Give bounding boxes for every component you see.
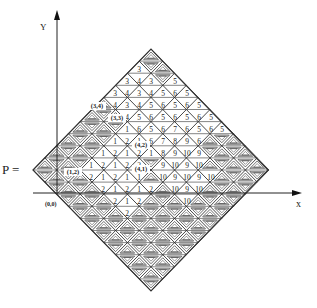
- cell-value: 9: [185, 161, 189, 170]
- cell-value: 4: [125, 89, 129, 98]
- cell-value: 1: [89, 161, 93, 170]
- cell-value: 1: [125, 125, 129, 134]
- cell-value: 2: [101, 185, 105, 194]
- cell-value: 5: [185, 113, 189, 122]
- cell-value: 1: [113, 137, 117, 146]
- cell-value: 1: [149, 149, 153, 158]
- cell-value: 2: [137, 149, 141, 158]
- cell-value: 10: [207, 173, 215, 182]
- cell-value: 10: [195, 161, 203, 170]
- cell-value: 4: [149, 89, 153, 98]
- cell-value: 1: [113, 161, 117, 170]
- cell-value: 6: [173, 113, 177, 122]
- cell-value: 9: [185, 185, 189, 194]
- cell-value: 6: [185, 101, 189, 110]
- cell-value: 1: [101, 149, 105, 158]
- y-axis-label: Y: [40, 22, 47, 32]
- cell-value: 5: [161, 89, 165, 98]
- cell-value: 6: [161, 101, 165, 110]
- cell-value: 5: [209, 113, 213, 122]
- point-label: (3,4): [91, 102, 103, 110]
- cell-value: 10: [171, 185, 179, 194]
- point-label: (1,2): [67, 168, 79, 176]
- cell-value: 3: [125, 101, 129, 110]
- cell-value: 2: [125, 137, 129, 146]
- x-axis-label: x: [296, 198, 301, 209]
- cell-value: 2: [89, 173, 93, 182]
- point-label: (3,3): [111, 114, 123, 122]
- cell-value: 2: [149, 185, 153, 194]
- cell-value: 9: [161, 161, 165, 170]
- cell-value: 9: [197, 149, 201, 158]
- cell-value: 8: [161, 149, 165, 158]
- cell-value: 6: [173, 89, 177, 98]
- cell-value: 5: [173, 101, 177, 110]
- cell-value: 7: [161, 137, 165, 146]
- cell-value: 2: [113, 197, 117, 206]
- cell-value: 9: [197, 173, 201, 182]
- cell-value: 1: [137, 185, 141, 194]
- cell-value: 5: [173, 77, 177, 86]
- cell-value: 3: [149, 77, 153, 86]
- cell-value: 1: [125, 173, 129, 182]
- cell-value: 5: [197, 125, 201, 134]
- point-label: (4,1): [135, 165, 147, 173]
- cell-value: 1: [125, 149, 129, 158]
- cell-value: 3: [137, 65, 141, 74]
- cell-value: 1: [125, 197, 129, 206]
- cell-value: 2: [113, 173, 117, 182]
- cell-value: 5: [185, 89, 189, 98]
- cell-value: 10: [159, 173, 167, 182]
- cell-value: 2: [125, 209, 129, 218]
- cell-value: 3: [137, 89, 141, 98]
- cell-value: 6: [185, 125, 189, 134]
- cell-value: 4: [137, 101, 141, 110]
- point-label: (4,2): [135, 141, 147, 149]
- cell-value: 10: [171, 161, 179, 170]
- cell-value: 4: [137, 77, 141, 86]
- cell-value: 1: [101, 173, 105, 182]
- cell-value: 6: [161, 125, 165, 134]
- cell-value: 5: [149, 125, 153, 134]
- cell-value: 9: [185, 137, 189, 146]
- cell-value: 1: [137, 173, 141, 182]
- cell-value: 2: [137, 197, 141, 206]
- x-axis-arrow-icon: [292, 190, 302, 196]
- cell-value: 6: [149, 113, 153, 122]
- cell-value: 6: [197, 113, 201, 122]
- cell-value: 3: [113, 89, 117, 98]
- lattice-diagram: 3343534345654345656545656565165676565121…: [0, 0, 317, 308]
- cell-values: 3343534345654345656545656565165676565121…: [89, 65, 224, 218]
- cell-value: 10: [183, 173, 191, 182]
- cell-value: 1: [113, 185, 117, 194]
- cell-value: 6: [209, 125, 213, 134]
- cell-value: 5: [137, 113, 141, 122]
- cell-value: 2: [125, 185, 129, 194]
- cell-value: 4: [113, 101, 117, 110]
- cell-value: 5: [161, 113, 165, 122]
- cell-value: 9: [173, 173, 177, 182]
- cell-value: 8: [173, 137, 177, 146]
- cell-value: 9: [173, 149, 177, 158]
- p-label: P =: [2, 162, 19, 177]
- cell-value: 6: [137, 125, 141, 134]
- cell-value: 7: [173, 125, 177, 134]
- cell-value: 5: [149, 101, 153, 110]
- cell-value: 2: [125, 161, 129, 170]
- cell-value: 10: [183, 197, 191, 206]
- cell-value: 2: [113, 149, 117, 158]
- cell-value: 2: [101, 161, 105, 170]
- cell-value: 10: [195, 185, 203, 194]
- origin-label: (0,0): [45, 201, 57, 208]
- cell-value: 10: [183, 149, 191, 158]
- y-axis-arrow-icon: [54, 10, 60, 20]
- cell-value: 5: [220, 125, 224, 134]
- cell-value: 3: [125, 77, 129, 86]
- cell-value: 5: [197, 101, 201, 110]
- cell-value: 6: [197, 137, 201, 146]
